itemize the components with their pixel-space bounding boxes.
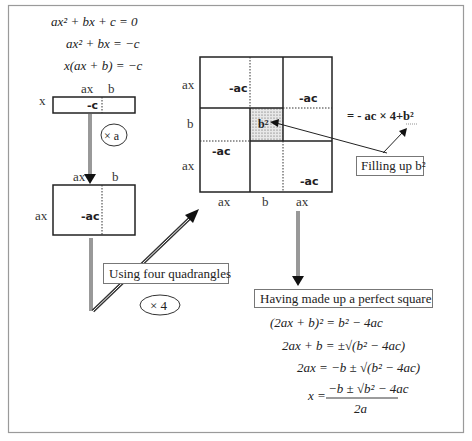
big-square-left-label-2: b xyxy=(187,116,194,131)
equations-bottom: (2ax + b)² = b² − 4ac 2ax + b = ±√(b² − … xyxy=(270,315,420,416)
big-square-left-label-1: ax xyxy=(182,77,195,92)
result-equation-1: (2ax + b)² = b² − 4ac xyxy=(270,315,383,330)
rect1-top-label-ax: ax xyxy=(81,81,94,96)
rect1-left-label: x xyxy=(39,93,46,108)
equation-3: x(ax + b) = −c xyxy=(63,58,143,73)
big-square-left-label-3: ax xyxy=(182,158,195,173)
rect1-group: ax b x -c xyxy=(39,81,135,113)
rect2-top-label-b: b xyxy=(112,169,119,184)
result-equation-3: 2ax = −b ± √(b² − 4ac) xyxy=(297,360,420,375)
equations-top: ax² + bx + c = 0 ax² + bx = −c x(ax + b)… xyxy=(51,14,143,73)
final-lhs: x = xyxy=(307,388,326,403)
rect1-top-label-b: b xyxy=(108,81,115,96)
filling-up-pointers xyxy=(270,119,407,153)
perfect-square-label: Having made up a perfect square xyxy=(260,291,432,306)
cell-top-right: -ac xyxy=(299,92,318,105)
big-square-bottom-label-2: b xyxy=(262,194,269,209)
rect2-group: ax b ax -ac xyxy=(35,169,135,235)
arrow-down-2 xyxy=(292,211,304,286)
big-square-bottom-label-1: ax xyxy=(218,194,231,209)
using-four-quadrangles-label: Using four quadrangles xyxy=(109,266,231,281)
center-label: b² xyxy=(258,117,269,131)
big-square-bottom-label-3: ax xyxy=(296,194,309,209)
rect2-top-label-ax: ax xyxy=(73,169,86,184)
cell-bottom-left: -ac xyxy=(212,145,231,158)
final-denominator: 2a xyxy=(354,401,368,416)
quadratic-formula-diagram: ax² + bx + c = 0 ax² + bx = −c x(ax + b)… xyxy=(0,0,472,441)
final-numerator: −b ± √b² − 4ac xyxy=(328,381,409,396)
rect2-left-label: ax xyxy=(35,208,48,223)
sum-expression: = - ac × 4+b² xyxy=(347,109,414,123)
arrow-down-1 xyxy=(84,114,96,184)
cell-bottom-right: -ac xyxy=(300,175,319,188)
equation-2: ax² + bx = −c xyxy=(66,36,140,51)
cell-top-left: -ac xyxy=(229,82,248,95)
equation-1: ax² + bx + c = 0 xyxy=(51,14,138,29)
rect1-cell-label: -c xyxy=(87,99,98,112)
times-a-label: × a xyxy=(104,129,120,143)
result-equation-2: 2ax + b = ±√(b² − 4ac) xyxy=(282,338,405,353)
filling-up-label: Filling up b² xyxy=(361,158,426,173)
times-four-label: × 4 xyxy=(150,298,168,313)
big-square-group: ax b ax -ac -ac -ac -ac b² ax b ax xyxy=(182,57,332,209)
rect2-cell-label: -ac xyxy=(81,210,100,223)
